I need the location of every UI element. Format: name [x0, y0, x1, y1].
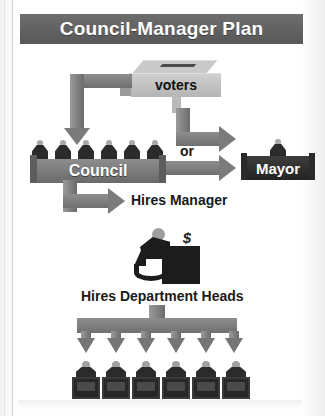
manager-at-desk-icon: $	[134, 228, 200, 284]
scan-gutter-line-inner	[12, 0, 13, 416]
or-label: or	[180, 143, 194, 159]
figure-page: Council-Manager Plan voters or Council	[0, 0, 325, 416]
council-bench-right-cap	[159, 155, 166, 183]
dept-arrow-head	[167, 338, 185, 353]
council-member-icon	[101, 140, 117, 159]
arrow-voters-council-vertical	[70, 74, 84, 131]
department-head-icon	[132, 361, 160, 399]
ballot-slot-icon	[160, 64, 197, 67]
voters-label: voters	[131, 73, 221, 96]
council-member-icon	[55, 140, 71, 159]
figure-title-bar: Council-Manager Plan	[20, 14, 303, 44]
department-head-icon	[222, 361, 250, 399]
dept-arrow-head	[107, 338, 125, 353]
arrow-council-mayor-bar	[163, 161, 220, 175]
department-head-icon	[102, 361, 130, 399]
dept-arrow-head	[197, 338, 215, 353]
department-head-icon	[72, 361, 100, 399]
mayor-bench: Mayor	[247, 156, 309, 180]
page-bottom-shadow	[18, 400, 302, 410]
dept-tree-crossbar	[77, 318, 237, 333]
dept-arrow-head	[225, 338, 243, 353]
department-head-icon	[162, 361, 190, 399]
ballot-box-icon: voters	[131, 60, 221, 96]
hires-manager-label: Hires Manager	[131, 192, 227, 208]
arrow-hires-manager-head	[108, 188, 125, 214]
council-member-icon	[124, 140, 140, 159]
mayor-label: Mayor	[247, 156, 309, 180]
council-member-icon	[78, 140, 94, 159]
dept-arrow-head	[77, 338, 95, 353]
dept-arrow-head	[137, 338, 155, 353]
council-label: Council	[37, 159, 159, 183]
arrow-hires-manager-horizontal	[63, 194, 109, 208]
council-bench: Council	[37, 159, 159, 183]
arrow-council-mayor-head	[219, 155, 236, 181]
hires-department-heads-label: Hires Department Heads	[81, 288, 244, 304]
scan-gutter-line-outer	[4, 0, 5, 416]
mayor-bench-right-cap	[309, 153, 315, 180]
council-bench-left-cap	[30, 155, 37, 183]
arrow-voters-mayor-head	[219, 126, 236, 152]
department-head-icon	[192, 361, 220, 399]
dollar-sign-icon: $	[178, 230, 196, 246]
figure-title: Council-Manager Plan	[60, 18, 264, 40]
manager-chair-base	[134, 264, 168, 281]
